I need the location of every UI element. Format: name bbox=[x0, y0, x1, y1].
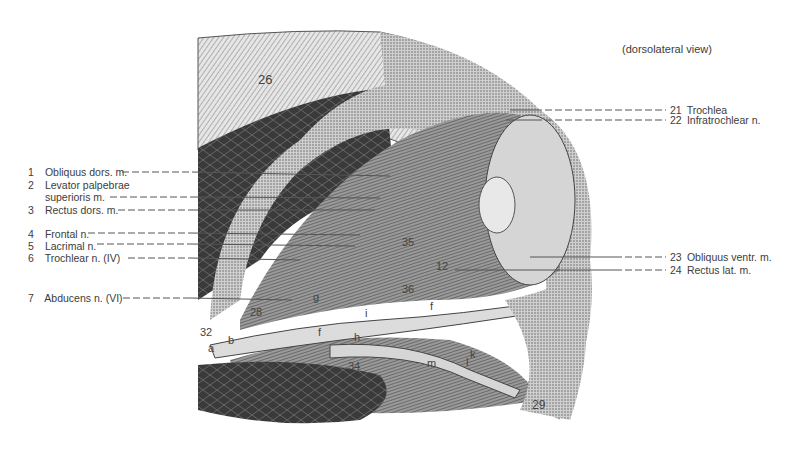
label-22: 22 Infratrochlear n. bbox=[670, 114, 760, 126]
nerve-m-label: m bbox=[427, 357, 436, 369]
label-7: 7 Abducens n. (VI) bbox=[28, 292, 123, 304]
label-4: 4 Frontal n. bbox=[28, 228, 89, 240]
region-29-label: 29 bbox=[532, 398, 545, 412]
label-2: 2 Levator palpebrae bbox=[28, 179, 130, 191]
nerve-h-label: h bbox=[354, 331, 360, 343]
label-5: 5 Lacrimal n. bbox=[28, 240, 96, 252]
orbit-illustration bbox=[0, 0, 808, 451]
label-6: 6 Trochlear n. (IV) bbox=[28, 252, 120, 264]
label-1: 1 Obliquus dors. m. bbox=[28, 166, 127, 178]
region-36-label: 36 bbox=[402, 283, 414, 295]
region-26-label: 26 bbox=[258, 72, 272, 87]
label-24: 24 Rectus lat. m. bbox=[670, 264, 751, 276]
nerve-i-label: i bbox=[365, 307, 367, 319]
nerve-a-label: a bbox=[208, 342, 214, 354]
region-35-label: 35 bbox=[402, 236, 414, 248]
nerve-b-label: b bbox=[228, 334, 234, 346]
region-28-label: 28 bbox=[250, 306, 262, 318]
region-34-label: 34 bbox=[348, 360, 360, 372]
anatomical-figure: (dorsolateral view) 1 Obliquus dors. m. … bbox=[0, 0, 808, 451]
nerve-l-label: l bbox=[466, 356, 468, 368]
region-32-label: 32 bbox=[200, 326, 212, 338]
region-12-label: 12 bbox=[436, 260, 448, 272]
label-23: 23 Obliquus ventr. m. bbox=[670, 251, 772, 263]
region-33-label: 33 bbox=[262, 360, 274, 372]
nerve-f-label-1: f bbox=[318, 326, 321, 338]
view-caption: (dorsolateral view) bbox=[622, 43, 712, 55]
label-3: 3 Rectus dors. m. bbox=[28, 204, 118, 216]
label-2-cont: superioris m. bbox=[28, 191, 105, 203]
nerve-f-label-2: f bbox=[430, 300, 433, 312]
nerve-k-label: k bbox=[470, 348, 476, 360]
nerve-g-label: g bbox=[313, 291, 319, 303]
